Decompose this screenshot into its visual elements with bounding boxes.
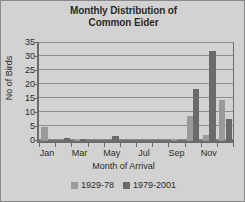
- legend-label: 1929-78: [81, 180, 114, 190]
- x-tick-mark: [39, 143, 40, 147]
- x-axis-ticks: JanMarMayJulSepNov: [39, 143, 233, 163]
- bar-group: [185, 43, 201, 141]
- bar-group: [201, 43, 217, 141]
- bar-group: [168, 43, 184, 141]
- y-tick-label: 5: [3, 122, 35, 131]
- legend-item: 1979-2001: [123, 180, 176, 190]
- bar-group: [152, 43, 168, 141]
- bar: [193, 89, 199, 141]
- bar-group: [217, 43, 233, 141]
- x-tick-mark: [71, 143, 72, 147]
- x-tick-mark: [136, 143, 137, 147]
- x-tick-mark: [217, 143, 218, 147]
- x-tick-label: Jul: [129, 148, 159, 158]
- legend-item: 1929-78: [71, 180, 114, 190]
- y-tick-label: 20: [3, 80, 35, 89]
- chart-legend: 1929-781979-2001: [1, 180, 245, 190]
- bar-group: [120, 43, 136, 141]
- x-tick-mark: [104, 143, 105, 147]
- bar: [226, 119, 232, 141]
- y-tick-label: 0: [3, 136, 35, 145]
- bar: [209, 51, 215, 141]
- x-tick-label: Mar: [64, 148, 94, 158]
- x-tick-mark: [120, 143, 121, 147]
- bars-layer: [39, 43, 233, 141]
- y-tick-label: 30: [3, 52, 35, 61]
- bar: [80, 139, 86, 141]
- y-tick-label: 35: [3, 38, 35, 47]
- legend-label: 1979-2001: [133, 180, 176, 190]
- legend-swatch: [71, 182, 78, 189]
- bar-group: [39, 43, 55, 141]
- bar: [64, 138, 70, 141]
- bar-group: [104, 43, 120, 141]
- y-axis-ticks: 05101520253035: [1, 1, 35, 202]
- x-tick-mark: [88, 143, 89, 147]
- x-tick-label: May: [97, 148, 127, 158]
- bar: [112, 136, 118, 141]
- bar: [41, 127, 47, 141]
- x-tick-mark: [168, 143, 169, 147]
- chart-screenshot: Monthly Distribution of Common Eider No …: [0, 0, 245, 202]
- bar-group: [55, 43, 71, 141]
- y-tick-label: 25: [3, 66, 35, 75]
- bar-group: [88, 43, 104, 141]
- x-tick-mark: [152, 143, 153, 147]
- chart-title: Monthly Distribution of Common Eider: [1, 5, 245, 29]
- x-tick-mark: [185, 143, 186, 147]
- chart-title-line-2: Common Eider: [1, 17, 245, 29]
- y-tick-label: 10: [3, 108, 35, 117]
- x-axis-title: Month of Arrival: [1, 161, 245, 171]
- x-tick-mark: [233, 143, 234, 147]
- bar-group: [71, 43, 87, 141]
- legend-swatch: [123, 182, 130, 189]
- x-tick-mark: [201, 143, 202, 147]
- y-tick-label: 15: [3, 94, 35, 103]
- x-tick-label: Nov: [194, 148, 224, 158]
- bar: [171, 139, 177, 141]
- chart-title-line-1: Monthly Distribution of: [1, 5, 245, 17]
- x-tick-mark: [55, 143, 56, 147]
- bar-group: [136, 43, 152, 141]
- x-tick-label: Sep: [161, 148, 191, 158]
- x-tick-label: Jan: [32, 148, 62, 158]
